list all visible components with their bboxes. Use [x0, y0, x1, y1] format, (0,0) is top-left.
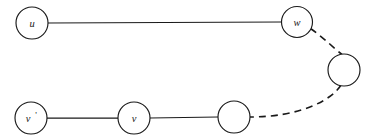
node-unlabeled-right-circle[interactable] — [328, 54, 360, 86]
edge-u-w — [48, 22, 282, 23]
node-v-prime-label: v — [26, 113, 31, 124]
edge-x-y — [250, 85, 341, 117]
node-unlabeled-bottom-circle[interactable] — [218, 101, 250, 133]
node-unlabeled-bottom[interactable] — [218, 101, 250, 133]
node-w[interactable]: w — [282, 7, 313, 38]
node-v-prime-circle[interactable] — [15, 102, 47, 134]
node-u[interactable]: u — [16, 7, 48, 39]
node-layer: u w v ' v — [15, 7, 360, 135]
node-v-prime[interactable]: v ' — [15, 102, 47, 134]
graph-canvas: u w v ' v — [0, 0, 376, 139]
graph-figure: u w v ' v — [0, 0, 376, 139]
node-unlabeled-right[interactable] — [328, 54, 360, 86]
edge-w-x — [311, 29, 343, 55]
edge-v-y — [150, 117, 218, 118]
node-v-label: v — [132, 113, 137, 124]
node-u-label: u — [29, 18, 34, 29]
node-w-label: w — [293, 17, 300, 28]
node-v[interactable]: v — [118, 102, 150, 134]
